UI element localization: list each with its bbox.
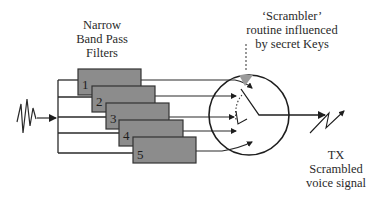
scrambler-switch bbox=[209, 44, 289, 155]
filter-1-label: 1 bbox=[82, 77, 89, 92]
filter-2-label: 2 bbox=[96, 94, 103, 109]
tx-transmission-icon bbox=[310, 111, 344, 133]
key-marker-icon bbox=[239, 75, 253, 86]
rotation-arrow-icon bbox=[236, 111, 247, 124]
scrambler-diagram: 1 2 3 4 5 bbox=[0, 0, 380, 206]
filter-4-label: 4 bbox=[123, 128, 130, 143]
filter-5: 5 bbox=[133, 137, 196, 163]
filter-5-label: 5 bbox=[137, 147, 144, 162]
input-waveform-icon bbox=[17, 99, 36, 133]
filter-3-label: 3 bbox=[110, 111, 117, 126]
